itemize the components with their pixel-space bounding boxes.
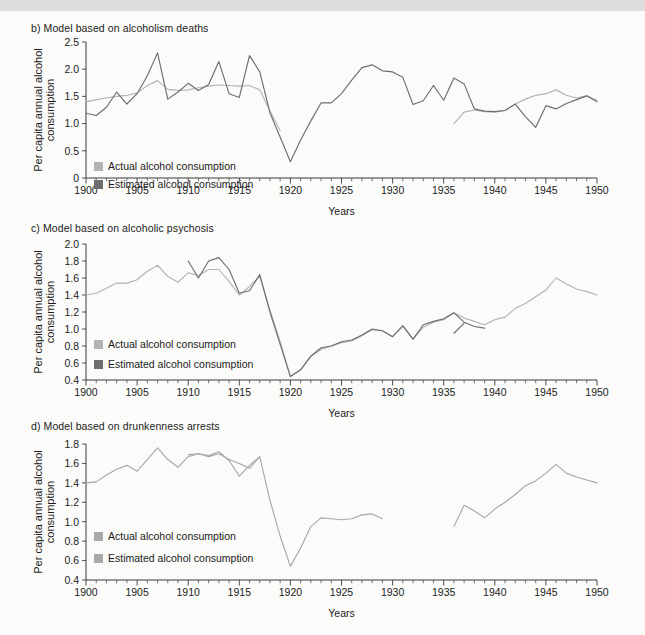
- legend-item-actual-label: Actual alcohol consumption: [108, 530, 236, 542]
- x-tick-label: 1930: [381, 386, 405, 398]
- y-tick-label: 0.4: [64, 574, 79, 586]
- x-tick-label: 1935: [432, 386, 456, 398]
- panel-d-svg: 0.40.60.81.01.21.41.61.81900190519101915…: [0, 420, 645, 630]
- panel-d-title: d) Model based on drunkenness arrests: [31, 420, 220, 432]
- y-tick-label: 0.6: [64, 554, 79, 566]
- panel-b-svg: 00.51.01.52.02.5190019051910191519201925…: [0, 22, 645, 222]
- x-tick-label: 1900: [74, 586, 98, 598]
- y-axis-title-line1: Per capita annual alcohol: [32, 250, 44, 374]
- x-tick-label: 1920: [279, 184, 303, 196]
- series-line: [454, 90, 597, 124]
- y-axis-title-line2: consumption: [44, 481, 56, 543]
- series-actual: [86, 448, 597, 567]
- x-axis-title: Years: [328, 205, 354, 217]
- legend-item-actual-swatch: [94, 532, 103, 541]
- x-tick-label: 1920: [279, 386, 303, 398]
- y-tick-label: 0.5: [64, 145, 79, 157]
- y-tick-label: 1.8: [64, 438, 79, 450]
- series-line: [454, 323, 464, 333]
- panel-c-title: c) Model based on alcoholic psychosis: [31, 222, 214, 234]
- chart-panel-c: c) Model based on alcoholic psychosis 0.…: [0, 222, 645, 422]
- chart-panel-b: b) Model based on alcoholism deaths 00.5…: [0, 22, 645, 222]
- x-tick-label: 1930: [381, 586, 405, 598]
- series-line: [454, 464, 597, 526]
- plot-area: [86, 448, 597, 567]
- legend: Actual alcohol consumptionEstimated alco…: [94, 338, 253, 370]
- y-tick-label: 1.5: [64, 90, 79, 102]
- x-tick-label: 1900: [74, 386, 98, 398]
- series-line: [86, 53, 597, 162]
- y-tick-label: 1.4: [64, 477, 79, 489]
- y-tick-label: 1.0: [64, 323, 79, 335]
- x-tick-label: 1910: [177, 386, 201, 398]
- y-tick-label: 0.8: [64, 340, 79, 352]
- x-tick-label: 1905: [125, 586, 149, 598]
- y-axis-title-line2: consumption: [44, 281, 56, 343]
- y-tick-label: 2.0: [64, 63, 79, 75]
- y-tick-label: 1.8: [64, 255, 79, 267]
- x-tick-label: 1935: [432, 184, 456, 196]
- x-tick-label: 1905: [125, 386, 149, 398]
- legend-item-estimated-swatch: [94, 360, 103, 369]
- plot-area: [86, 53, 597, 162]
- y-tick-label: 1.6: [64, 457, 79, 469]
- legend-item-actual-label: Actual alcohol consumption: [108, 338, 236, 350]
- legend-item-estimated-label: Estimated alcohol consumption: [108, 358, 253, 370]
- legend: Actual alcohol consumptionEstimated alco…: [94, 530, 253, 564]
- y-tick-label: 2.5: [64, 36, 79, 48]
- legend-item-estimated-label: Estimated alcohol consumption: [108, 552, 253, 564]
- y-tick-label: 0: [73, 172, 79, 184]
- x-tick-label: 1945: [534, 386, 558, 398]
- series-actual: [86, 81, 597, 131]
- x-tick-label: 1915: [228, 386, 252, 398]
- y-tick-label: 1.2: [64, 496, 79, 508]
- legend-item-actual-label: Actual alcohol consumption: [108, 160, 236, 172]
- x-tick-label: 1940: [483, 184, 507, 196]
- x-tick-label: 1935: [432, 586, 456, 598]
- y-tick-label: 1.0: [64, 516, 79, 528]
- x-tick-label: 1920: [279, 586, 303, 598]
- y-tick-label: 1.6: [64, 272, 79, 284]
- legend-item-estimated-swatch: [94, 180, 103, 189]
- x-tick-label: 1930: [381, 184, 405, 196]
- series-line: [86, 448, 382, 567]
- x-tick-label: 1950: [585, 184, 609, 196]
- axes: 0.40.60.81.01.21.41.61.82.01900190519101…: [64, 238, 608, 398]
- series-estimated: [86, 53, 597, 162]
- legend-item-actual-swatch: [94, 162, 103, 171]
- panel-c-svg: 0.40.60.81.01.21.41.61.82.01900190519101…: [0, 222, 645, 422]
- legend-item-actual-swatch: [94, 340, 103, 349]
- x-tick-label: 1925: [330, 586, 354, 598]
- y-tick-label: 0.8: [64, 535, 79, 547]
- x-tick-label: 1925: [330, 386, 354, 398]
- y-tick-label: 1.4: [64, 289, 79, 301]
- y-tick-label: 1.2: [64, 306, 79, 318]
- y-axis-title: Per capita annual alcoholconsumption: [32, 450, 56, 574]
- y-axis-title: Per capita annual alcoholconsumption: [32, 250, 56, 374]
- x-tick-label: 1945: [534, 184, 558, 196]
- legend: Actual alcohol consumptionEstimated alco…: [94, 160, 253, 190]
- x-tick-label: 1915: [228, 586, 252, 598]
- x-axis-title: Years: [328, 407, 354, 419]
- x-tick-label: 1910: [177, 586, 201, 598]
- y-axis-title-line1: Per capita annual alcohol: [32, 48, 44, 172]
- y-tick-label: 1.0: [64, 117, 79, 129]
- y-axis-title-line2: consumption: [44, 79, 56, 141]
- x-tick-label: 1940: [483, 386, 507, 398]
- x-tick-label: 1925: [330, 184, 354, 196]
- x-axis-title: Years: [328, 607, 354, 619]
- x-tick-label: 1950: [585, 586, 609, 598]
- legend-item-estimated-swatch: [94, 554, 103, 563]
- x-tick-label: 1950: [585, 386, 609, 398]
- y-axis-title-line1: Per capita annual alcohol: [32, 450, 44, 574]
- x-tick-label: 1940: [483, 586, 507, 598]
- y-axis-title: Per capita annual alcoholconsumption: [32, 48, 56, 172]
- legend-item-estimated-label: Estimated alcohol consumption: [108, 178, 253, 190]
- panel-b-title: b) Model based on alcoholism deaths: [31, 22, 208, 34]
- y-tick-label: 0.6: [64, 357, 79, 369]
- page-header-band: [0, 0, 645, 11]
- chart-panel-d: d) Model based on drunkenness arrests 0.…: [0, 420, 645, 630]
- y-tick-label: 2.0: [64, 238, 79, 250]
- x-tick-label: 1945: [534, 586, 558, 598]
- y-tick-label: 0.4: [64, 374, 79, 386]
